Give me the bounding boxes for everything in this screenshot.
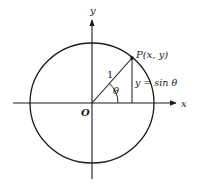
angle-label: θ [113,85,119,96]
radius-label: 1 [107,69,113,80]
x-axis-label: x [181,98,187,109]
point-p [130,56,134,60]
unit-circle-diagram: y x O P(x, y) 1 θ y = sin θ [0,0,197,189]
radius-segment [92,58,132,103]
point-label: P(x, y) [135,49,168,60]
origin-label: O [81,107,90,118]
diagram-canvas: y x O P(x, y) 1 θ y = sin θ [0,0,197,189]
y-axis-label: y [89,5,96,16]
sine-label: y = sin θ [134,77,177,88]
